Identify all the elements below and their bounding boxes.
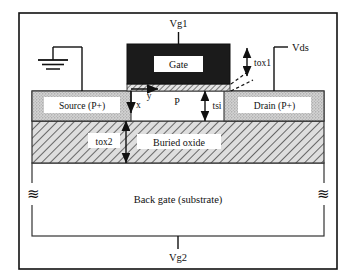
channel-label: P [174, 96, 180, 107]
vds-label: Vds [292, 42, 309, 53]
tsi-label: tsi [213, 101, 222, 111]
buried-oxide-label: Buried oxide [153, 137, 205, 148]
right-break-icon: ≋ [317, 186, 330, 202]
substrate-label: Back gate (substrate) [134, 194, 223, 206]
tox2-label: tox2 [96, 137, 113, 147]
source-label: Source (P+) [59, 100, 105, 112]
device-diagram: Back gate (substrate) Buried oxide Sourc… [0, 0, 355, 280]
y-axis-label: y [147, 91, 152, 101]
gate-oxide-region [127, 84, 230, 91]
drain-label: Drain (P+) [254, 100, 295, 112]
gate-label: Gate [169, 59, 188, 70]
tox1-label: tox1 [254, 58, 271, 68]
vg2-label: Vg2 [169, 252, 187, 263]
figure-canvas: Back gate (substrate) Buried oxide Sourc… [0, 0, 355, 280]
vg1-label: Vg1 [169, 18, 187, 29]
left-break-icon: ≋ [27, 186, 40, 202]
x-axis-label: x [136, 100, 141, 110]
